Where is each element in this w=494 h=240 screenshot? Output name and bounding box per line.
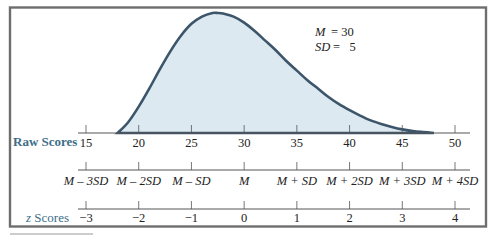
- raw-tick-label: 35: [291, 136, 304, 150]
- sd-tick-label: M – 3SD: [63, 174, 108, 188]
- z-tick-label: 2: [346, 211, 352, 225]
- raw-tick-label: 45: [396, 136, 409, 150]
- raw-axis-label: Raw Scores: [13, 134, 77, 149]
- raw-tick-label: 25: [185, 136, 198, 150]
- z-tick-label: −2: [132, 211, 145, 225]
- sd-tick-label: M + 2SD: [325, 174, 373, 188]
- stats-annotation: M = 30 SD = 5: [314, 25, 356, 54]
- sd-symbol: SD: [315, 40, 330, 54]
- z-tick-label: 1: [294, 211, 300, 225]
- chart-svg: M = 30 SD = 5 1520253035404550 Raw Score…: [0, 0, 494, 240]
- raw-tick-label: 30: [238, 136, 251, 150]
- sd-axis-ticks: M – 3SDM – 2SDM – SDMM + SDM + 2SDM + 3S…: [63, 162, 479, 188]
- sd-value: = 5: [333, 40, 356, 54]
- distribution-curve: [118, 13, 434, 133]
- raw-tick-label: 50: [449, 136, 462, 150]
- mean-symbol: M: [314, 25, 326, 39]
- z-tick-label: −3: [79, 211, 92, 225]
- sd-tick-label: M – 2SD: [115, 174, 160, 188]
- sd-tick-label: M + SD: [276, 174, 317, 188]
- z-axis-label-text: Scores: [31, 210, 69, 225]
- z-tick-label: 3: [399, 211, 405, 225]
- z-tick-label: 0: [241, 211, 247, 225]
- mean-value: = 30: [331, 25, 354, 39]
- raw-tick-label: 20: [132, 136, 145, 150]
- z-axis-label: z Scores: [25, 210, 69, 225]
- z-tick-label: 4: [452, 211, 459, 225]
- sd-tick-label: M: [238, 174, 250, 188]
- raw-tick-label: 15: [80, 136, 93, 150]
- sd-tick-label: M + 4SD: [431, 174, 479, 188]
- sd-tick-label: M – SD: [171, 174, 210, 188]
- raw-tick-label: 40: [343, 136, 356, 150]
- z-axis-ticks: −3−2−101234: [79, 201, 459, 225]
- z-tick-label: −1: [185, 211, 198, 225]
- sd-tick-label: M + 3SD: [378, 174, 426, 188]
